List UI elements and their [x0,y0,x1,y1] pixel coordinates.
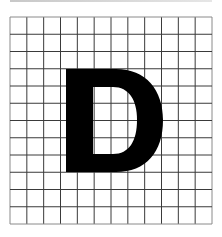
grid [10,17,212,224]
grid-letter-figure: D [0,0,222,237]
